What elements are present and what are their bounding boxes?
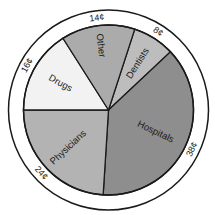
value-label-other: 14¢ [89, 12, 105, 24]
pie-chart: DentistsHospitalsPhysiciansDrugsOther 8¢… [0, 0, 215, 215]
